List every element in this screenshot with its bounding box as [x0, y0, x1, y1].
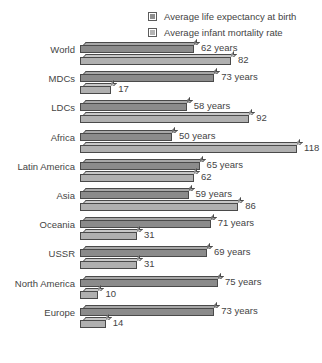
bar-infant-mortality — [80, 86, 111, 94]
chart-legend: Average life expectancy at birth Average… — [148, 9, 322, 41]
bar-life-expectancy — [80, 191, 189, 199]
chart-group: North America75 years10 — [0, 276, 322, 305]
bar-infant-mortality — [80, 320, 106, 328]
legend-swatch-infant-mortality-icon — [148, 28, 157, 37]
bar-front-face — [80, 291, 98, 299]
category-label-ussr: USSR — [0, 248, 75, 259]
bar-front-face — [80, 261, 137, 269]
bar-front-face — [80, 133, 172, 141]
chart-group: Oceania71 years31 — [0, 217, 322, 246]
bar-front-face — [80, 220, 211, 228]
bar-life-expectancy — [80, 103, 187, 111]
bar-value-label-life-expectancy: 65 years — [207, 159, 243, 171]
bar-value-label-life-expectancy: 58 years — [194, 100, 230, 112]
bar-infant-mortality — [80, 261, 137, 269]
bar-front-face — [80, 232, 137, 240]
bar-front-face — [80, 74, 214, 82]
bar-value-label-infant-mortality: 31 — [144, 258, 155, 270]
bar-value-label-infant-mortality: 17 — [118, 83, 129, 95]
bar-value-label-infant-mortality: 82 — [238, 54, 249, 66]
bar-infant-mortality — [80, 203, 238, 211]
chart-group: Europe73 years14 — [0, 305, 322, 334]
bar-front-face — [80, 103, 187, 111]
bar-value-label-life-expectancy: 73 years — [221, 305, 257, 317]
legend-item-life-expectancy: Average life expectancy at birth — [148, 9, 322, 23]
category-label-latin-america: Latin America — [0, 161, 75, 172]
chart-group: Asia59 years86 — [0, 188, 322, 217]
bar-value-label-infant-mortality: 86 — [245, 200, 256, 212]
bar-front-face — [80, 115, 249, 123]
category-label-africa: Africa — [0, 132, 75, 143]
chart-plot-area: World62 years82MDCs73 years17LDCs58 year… — [0, 42, 322, 363]
chart-group: Latin America65 years62 — [0, 159, 322, 188]
bar-value-label-life-expectancy: 73 years — [221, 71, 257, 83]
bar-life-expectancy — [80, 133, 172, 141]
legend-label-life-expectancy: Average life expectancy at birth — [164, 11, 296, 22]
bar-life-expectancy — [80, 308, 214, 316]
bar-life-expectancy — [80, 74, 214, 82]
chart-group: World62 years82 — [0, 42, 322, 71]
bar-value-label-infant-mortality: 62 — [201, 171, 212, 183]
category-label-asia: Asia — [0, 190, 75, 201]
population-indicators-bar-chart: Average life expectancy at birth Average… — [0, 0, 322, 363]
bar-front-face — [80, 57, 231, 65]
bar-value-label-infant-mortality: 10 — [105, 288, 116, 300]
bar-value-label-life-expectancy: 59 years — [196, 188, 232, 200]
bar-value-label-life-expectancy: 69 years — [214, 246, 250, 258]
bar-life-expectancy — [80, 249, 207, 257]
legend-item-infant-mortality: Average infant mortality rate — [148, 25, 322, 39]
chart-group: USSR69 years31 — [0, 246, 322, 275]
bar-infant-mortality — [80, 145, 297, 153]
legend-swatch-life-expectancy-icon — [148, 12, 157, 21]
bar-value-label-life-expectancy: 50 years — [179, 130, 215, 142]
bar-life-expectancy — [80, 220, 211, 228]
bar-value-label-life-expectancy: 75 years — [225, 276, 261, 288]
bar-infant-mortality — [80, 57, 231, 65]
bar-infant-mortality — [80, 232, 137, 240]
bar-front-face — [80, 162, 200, 170]
bar-value-label-infant-mortality: 118 — [304, 142, 319, 154]
bar-front-face — [80, 249, 207, 257]
category-label-europe: Europe — [0, 307, 75, 318]
bar-front-face — [80, 145, 297, 153]
chart-group: Africa50 years118 — [0, 130, 322, 159]
bar-value-label-life-expectancy: 71 years — [218, 217, 254, 229]
bar-front-face — [80, 191, 189, 199]
category-label-ldcs: LDCs — [0, 102, 75, 113]
bar-front-face — [80, 308, 214, 316]
bar-front-face — [80, 320, 106, 328]
bar-value-label-infant-mortality: 31 — [144, 229, 155, 241]
legend-label-infant-mortality: Average infant mortality rate — [164, 27, 283, 38]
bar-infant-mortality — [80, 115, 249, 123]
bar-front-face — [80, 45, 194, 53]
bar-life-expectancy — [80, 45, 194, 53]
bar-front-face — [80, 203, 238, 211]
category-label-oceania: Oceania — [0, 219, 75, 230]
bar-front-face — [80, 86, 111, 94]
bar-value-label-infant-mortality: 14 — [113, 317, 124, 329]
category-label-world: World — [0, 44, 75, 55]
bar-life-expectancy — [80, 162, 200, 170]
chart-group: MDCs73 years17 — [0, 71, 322, 100]
bar-value-label-infant-mortality: 92 — [256, 112, 267, 124]
category-label-mdcs: MDCs — [0, 73, 75, 84]
bar-infant-mortality — [80, 291, 98, 299]
bar-infant-mortality — [80, 174, 194, 182]
chart-group: LDCs58 years92 — [0, 100, 322, 129]
bar-front-face — [80, 174, 194, 182]
category-label-north-america: North America — [0, 278, 75, 289]
